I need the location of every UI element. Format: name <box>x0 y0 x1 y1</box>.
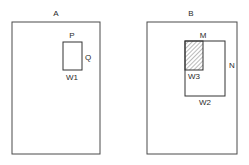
label-w2: W2 <box>199 98 212 107</box>
window-w1 <box>63 42 82 70</box>
label-m: M <box>200 31 207 40</box>
panel-a-frame <box>12 22 100 154</box>
label-n: N <box>229 61 235 70</box>
window-w3-hatched <box>185 41 203 70</box>
label-w1: W1 <box>66 73 79 82</box>
panel-a: A P Q W1 <box>12 9 100 154</box>
label-w3: W3 <box>188 72 201 81</box>
label-q: Q <box>85 53 91 62</box>
panel-b: B M N W3 W2 <box>147 9 237 154</box>
diagram-canvas: A P Q W1 B M N W3 W2 <box>0 0 249 165</box>
panel-b-title: B <box>188 9 193 18</box>
panel-a-title: A <box>53 9 59 18</box>
label-p: P <box>69 31 74 40</box>
